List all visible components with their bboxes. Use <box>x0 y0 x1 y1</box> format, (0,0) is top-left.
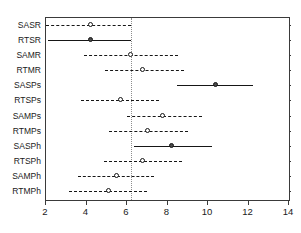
y-axis-label-sasph: SASPh <box>0 141 41 151</box>
x-axis-tick <box>45 201 46 205</box>
interval-row <box>46 185 289 199</box>
interval-row <box>46 49 289 63</box>
interval-row <box>46 140 289 154</box>
plot-area <box>45 17 290 201</box>
interval-row <box>46 34 289 48</box>
y-axis-label-rtsph: RTSPh <box>0 156 41 166</box>
x-axis-tick <box>86 201 87 205</box>
x-axis-tick <box>167 201 168 205</box>
point-estimate-marker <box>160 113 165 118</box>
y-axis-label-rtsps: RTSPs <box>0 95 41 105</box>
x-axis-tick-label-6: 6 <box>111 206 141 218</box>
x-axis-tick <box>248 201 249 205</box>
x-axis-tick-label-2: 2 <box>30 206 60 218</box>
interval-row <box>46 155 289 169</box>
point-estimate-marker <box>213 82 218 87</box>
y-axis-label-sasps: SASPs <box>0 80 41 90</box>
x-axis-tick-label-4: 4 <box>71 206 101 218</box>
x-axis-tick-label-14: 14 <box>273 206 301 218</box>
point-estimate-marker <box>145 128 150 133</box>
y-axis-label-rtmr: RTMR <box>0 65 41 75</box>
interval-row <box>46 19 289 33</box>
x-axis-tick-label-12: 12 <box>233 206 263 218</box>
point-estimate-marker <box>118 97 123 102</box>
point-estimate-marker <box>114 173 119 178</box>
point-estimate-marker <box>88 22 93 27</box>
y-axis-label-rtmps: RTMPs <box>0 126 41 136</box>
interval-row <box>46 79 289 93</box>
y-axis-label-samr: SAMR <box>0 50 41 60</box>
x-axis-tick-labels: 2468101214 <box>0 206 301 222</box>
interval-row <box>46 94 289 108</box>
interval-row <box>46 125 289 139</box>
interval-row <box>46 110 289 124</box>
forest-plot-chart: SASRRTSRSAMRRTMRSASPsRTSPsSAMPsRTMPsSASP… <box>0 0 301 233</box>
x-axis-tick-label-10: 10 <box>192 206 222 218</box>
point-estimate-marker <box>140 67 145 72</box>
interval-row <box>46 64 289 78</box>
x-axis-tick-label-8: 8 <box>152 206 182 218</box>
point-estimate-marker <box>128 52 133 57</box>
point-estimate-marker <box>88 37 93 42</box>
y-axis-label-samps: SAMPs <box>0 111 41 121</box>
y-axis-label-samph: SAMPh <box>0 171 41 181</box>
x-axis-tick <box>126 201 127 205</box>
interval-row <box>46 170 289 184</box>
x-axis-tick <box>207 201 208 205</box>
x-axis-tick <box>288 201 289 205</box>
y-axis-label-sasr: SASR <box>0 20 41 30</box>
y-axis-label-rtsr: RTSR <box>0 35 41 45</box>
y-axis-label-rtmph: RTMPh <box>0 186 41 196</box>
point-estimate-marker <box>106 188 111 193</box>
point-estimate-marker <box>169 143 174 148</box>
y-axis-category-labels: SASRRTSRSAMRRTMRSASPsRTSPsSAMPsRTMPsSASP… <box>0 17 41 201</box>
point-estimate-marker <box>140 158 145 163</box>
